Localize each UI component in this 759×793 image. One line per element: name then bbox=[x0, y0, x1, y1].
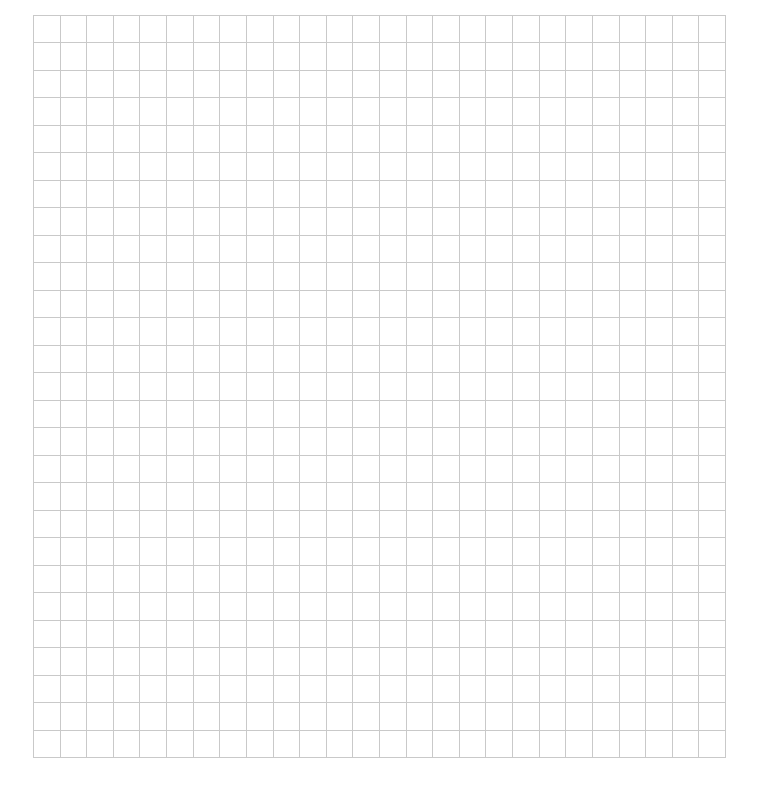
grid-cell bbox=[194, 593, 221, 620]
grid-cell bbox=[673, 153, 700, 180]
grid-cell bbox=[327, 318, 354, 345]
grid-cell bbox=[300, 346, 327, 373]
grid-cell bbox=[620, 153, 647, 180]
grid-cell bbox=[593, 566, 620, 593]
grid-cell bbox=[274, 43, 301, 70]
grid-cell bbox=[593, 648, 620, 675]
grid-cell bbox=[220, 208, 247, 235]
grid-cell bbox=[460, 373, 487, 400]
grid-cell bbox=[61, 71, 88, 98]
grid-cell bbox=[61, 538, 88, 565]
grid-cell bbox=[167, 236, 194, 263]
grid-cell bbox=[247, 291, 274, 318]
grid-cell bbox=[540, 648, 567, 675]
grid-cell bbox=[220, 318, 247, 345]
grid-cell bbox=[540, 731, 567, 758]
grid-cell bbox=[167, 731, 194, 758]
grid-cell bbox=[433, 483, 460, 510]
grid-cell bbox=[486, 703, 513, 730]
grid-cell bbox=[540, 346, 567, 373]
grid-cell bbox=[460, 511, 487, 538]
grid-cell bbox=[620, 538, 647, 565]
grid-cell bbox=[87, 483, 114, 510]
grid-cell bbox=[87, 291, 114, 318]
grid-cell bbox=[620, 648, 647, 675]
grid-cell bbox=[593, 126, 620, 153]
grid-cell bbox=[274, 181, 301, 208]
grid-cell bbox=[620, 566, 647, 593]
grid-cell bbox=[247, 318, 274, 345]
grid-cell bbox=[407, 648, 434, 675]
grid-cell bbox=[407, 98, 434, 125]
grid-cell bbox=[620, 483, 647, 510]
grid-cell bbox=[247, 456, 274, 483]
grid-cell bbox=[220, 263, 247, 290]
grid-cell bbox=[593, 263, 620, 290]
grid-cell bbox=[274, 208, 301, 235]
grid-cell bbox=[460, 566, 487, 593]
grid-cell bbox=[61, 731, 88, 758]
grid-cell bbox=[167, 483, 194, 510]
grid-cell bbox=[114, 593, 141, 620]
grid-cell bbox=[34, 428, 61, 455]
grid-cell bbox=[433, 428, 460, 455]
grid-cell bbox=[247, 208, 274, 235]
grid-cell bbox=[167, 126, 194, 153]
grid-cell bbox=[699, 648, 726, 675]
grid-cell bbox=[34, 16, 61, 43]
grid-cell bbox=[407, 483, 434, 510]
grid-cell bbox=[646, 98, 673, 125]
grid-cell bbox=[699, 703, 726, 730]
grid-cell bbox=[380, 346, 407, 373]
grid-cell bbox=[460, 16, 487, 43]
grid-cell bbox=[140, 291, 167, 318]
grid-cell bbox=[486, 126, 513, 153]
grid-cell bbox=[87, 593, 114, 620]
grid-cell bbox=[61, 621, 88, 648]
grid-cell bbox=[513, 16, 540, 43]
grid-cell bbox=[114, 126, 141, 153]
grid-cell bbox=[433, 98, 460, 125]
grid-cell bbox=[566, 731, 593, 758]
grid-cell bbox=[566, 428, 593, 455]
grid-cell bbox=[34, 593, 61, 620]
grid-cell bbox=[61, 181, 88, 208]
grid-cell bbox=[620, 401, 647, 428]
grid-cell bbox=[646, 208, 673, 235]
grid-cell bbox=[433, 703, 460, 730]
grid-cell bbox=[380, 126, 407, 153]
grid-cell bbox=[194, 456, 221, 483]
grid-cell bbox=[593, 291, 620, 318]
grid-cell bbox=[87, 676, 114, 703]
grid-cell bbox=[407, 373, 434, 400]
grid-cell bbox=[646, 648, 673, 675]
grid-cell bbox=[114, 291, 141, 318]
grid-cell bbox=[699, 566, 726, 593]
grid-cell bbox=[433, 593, 460, 620]
grid-cell bbox=[247, 43, 274, 70]
grid-cell bbox=[540, 208, 567, 235]
grid-cell bbox=[620, 456, 647, 483]
grid-cell bbox=[699, 483, 726, 510]
grid-cell bbox=[699, 126, 726, 153]
grid-cell bbox=[327, 483, 354, 510]
grid-cell bbox=[274, 401, 301, 428]
grid-cell bbox=[114, 153, 141, 180]
grid-cell bbox=[300, 373, 327, 400]
grid-cell bbox=[593, 153, 620, 180]
grid-cell bbox=[87, 16, 114, 43]
grid-cell bbox=[593, 71, 620, 98]
grid-cell bbox=[540, 71, 567, 98]
grid-cell bbox=[566, 43, 593, 70]
grid-cell bbox=[513, 43, 540, 70]
grid-cell bbox=[327, 648, 354, 675]
grid-cell bbox=[486, 566, 513, 593]
grid-cell bbox=[646, 153, 673, 180]
grid-cell bbox=[353, 71, 380, 98]
grid-cell bbox=[167, 511, 194, 538]
grid-cell bbox=[194, 208, 221, 235]
grid-cell bbox=[513, 648, 540, 675]
grid-cell bbox=[300, 263, 327, 290]
grid-cell bbox=[460, 538, 487, 565]
grid-cell bbox=[646, 401, 673, 428]
